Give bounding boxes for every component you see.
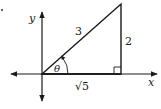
angle-label: θ: [54, 63, 60, 74]
right-angle-marker: [114, 67, 121, 74]
angle-arrowhead-icon: [61, 56, 66, 61]
opposite-label: 2: [125, 35, 132, 48]
x-axis-label: x: [148, 76, 155, 89]
angle-arc-icon: [63, 58, 69, 75]
y-axis-label: y: [28, 12, 36, 25]
adjacent-label: √5: [75, 80, 89, 93]
hypotenuse-label: 3: [75, 25, 82, 38]
triangle-diagram: y x 3 2 θ √5: [0, 0, 161, 109]
bullet-dot: [1, 9, 3, 11]
